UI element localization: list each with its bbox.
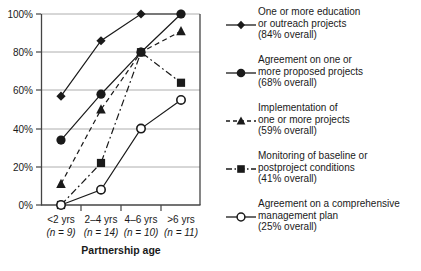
ytick-label-80: 80%: [13, 47, 33, 58]
xtick-label-2: 4–6 yrs: [125, 214, 158, 225]
series-line-5: [61, 100, 181, 205]
legend-key-management-plan: [226, 210, 256, 224]
ytick-label-40: 40%: [13, 124, 33, 135]
series-2: [56, 9, 185, 144]
ytick-label-100: 100%: [7, 9, 33, 20]
legend-item-management-plan: Agreement on a comprehensive management …: [226, 198, 400, 233]
data-point: [56, 179, 66, 188]
xtick-label-0: <2 yrs: [47, 214, 75, 225]
figure-chart-partnership-age: 100% 80% 60% 40% 20% 0% <2 yrs 2–4 yrs 4…: [0, 0, 421, 271]
series-line-2: [61, 14, 181, 140]
ytick-label-0: 0%: [19, 200, 34, 211]
series-line-1: [61, 14, 181, 96]
legend-item-monitoring: Monitoring of baseline or postproject co…: [226, 150, 368, 185]
data-point: [57, 201, 65, 209]
data-point: [176, 9, 185, 18]
square-dashdot-key-icon: [226, 162, 256, 176]
legend-item-education-outreach: One or more education or outreach projec…: [226, 6, 360, 41]
chart-legend: One or more education or outreach projec…: [226, 4, 421, 254]
data-point: [97, 186, 105, 194]
circle-filled-solid-key-icon: [226, 66, 256, 80]
ytick-label-60: 60%: [13, 85, 33, 96]
data-point: [137, 124, 145, 132]
triangle-dashed-key-icon: [226, 114, 256, 128]
series-5: [57, 96, 185, 209]
data-point: [97, 159, 105, 167]
xtick-count-3: (n = 11): [164, 227, 198, 238]
x-axis-title: Partnership age: [81, 244, 161, 256]
xtick-count-0: (n = 9): [46, 227, 75, 238]
legend-key-agreement-proposed: [226, 66, 256, 80]
data-point: [96, 36, 105, 45]
line-chart-svg: 100% 80% 60% 40% 20% 0% <2 yrs 2–4 yrs 4…: [0, 0, 225, 271]
circle-open-solid-key-icon: [226, 210, 256, 224]
xtick-label-3: >6 yrs: [167, 214, 195, 225]
x-tick-marks: [81, 205, 161, 211]
diamond-solid-key-icon: [226, 18, 256, 32]
series-line-3: [61, 31, 181, 184]
xtick-count-2: (n = 10): [124, 227, 159, 238]
legend-label-implementation: Implementation of one or more projects (…: [256, 102, 350, 137]
legend-key-monitoring: [226, 162, 256, 176]
y-tick-marks: [36, 14, 41, 205]
data-point: [177, 96, 185, 104]
series-1: [56, 9, 185, 100]
legend-item-implementation: Implementation of one or more projects (…: [226, 102, 350, 137]
legend-key-education-outreach: [226, 18, 256, 32]
data-point: [137, 48, 145, 56]
data-point: [56, 92, 65, 101]
data-point: [176, 26, 186, 35]
legend-key-implementation: [226, 114, 256, 128]
data-point: [56, 135, 65, 144]
legend-label-monitoring: Monitoring of baseline or postproject co…: [256, 150, 368, 185]
ytick-label-20: 20%: [13, 162, 33, 173]
data-point: [96, 90, 105, 99]
legend-label-education-outreach: One or more education or outreach projec…: [256, 6, 360, 41]
series-3: [56, 26, 186, 188]
legend-item-agreement-proposed: Agreement on one or more proposed projec…: [226, 54, 363, 89]
data-point: [136, 9, 145, 18]
legend-label-agreement-proposed: Agreement on one or more proposed projec…: [256, 54, 363, 89]
plot-area-container: 100% 80% 60% 40% 20% 0% <2 yrs 2–4 yrs 4…: [0, 0, 225, 271]
xtick-count-1: (n = 14): [84, 227, 119, 238]
legend-label-management-plan: Agreement on a comprehensive management …: [256, 198, 400, 233]
series-layer: [56, 9, 186, 209]
xtick-label-1: 2–4 yrs: [85, 214, 118, 225]
data-point: [177, 79, 185, 87]
